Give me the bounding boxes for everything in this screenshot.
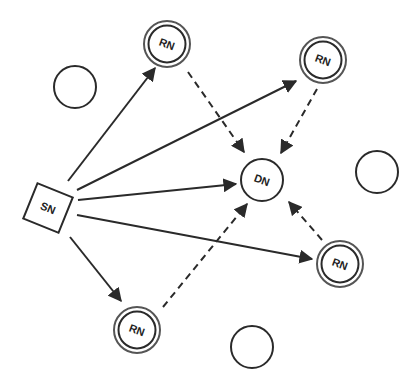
idle-node: [231, 326, 273, 368]
edge-sn-to-dn: [78, 184, 236, 200]
edge-sn-to-rn-right: [77, 215, 312, 259]
idle-nodes: [54, 66, 398, 368]
source-node: SN: [23, 183, 72, 232]
edge-sn-to-rn-bottom: [70, 237, 121, 301]
idle-node: [356, 151, 398, 193]
edge-rn-topright-to-dn: [281, 89, 317, 153]
relay-node-top: RN: [144, 21, 190, 67]
destination-node: DN: [241, 159, 283, 201]
idle-node: [54, 66, 96, 108]
edge-rn-bottom-to-dn: [163, 204, 247, 307]
edge-rn-right-to-dn: [289, 202, 322, 240]
relay-network-diagram: RN RN RN RN DN SN: [0, 0, 419, 385]
relay-node-bottom: RN: [114, 307, 160, 353]
relay-node-topright: RN: [300, 37, 346, 83]
relay-node-right: RN: [317, 241, 363, 287]
